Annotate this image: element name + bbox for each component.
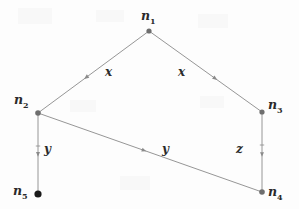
- node-n5[interactable]: [34, 190, 41, 197]
- node-label-subscript: 2: [23, 100, 29, 110]
- node-layer: [34, 28, 264, 197]
- node-label-n1: n1: [141, 10, 156, 25]
- edge-layer: [38, 31, 262, 194]
- arrowhead-layer: [36, 74, 264, 156]
- edge-label-e-n3-n4: z: [236, 143, 243, 155]
- edge-label-e-n1-n3: x: [178, 66, 185, 78]
- node-label-base: n: [13, 183, 22, 198]
- edge-n2-n4[interactable]: [38, 113, 262, 192]
- node-label-base: n: [268, 97, 277, 112]
- node-label-subscript: 3: [277, 105, 283, 115]
- node-label-subscript: 4: [277, 192, 283, 202]
- edge-n1-n3[interactable]: [149, 31, 262, 112]
- node-n4[interactable]: [259, 189, 265, 195]
- edge-label-e-n1-n2: x: [105, 66, 112, 78]
- arrowhead-n2-n4: [141, 148, 146, 152]
- node-label-n2: n2: [14, 94, 29, 109]
- graph-figure: xxyyzn1n2n3n4n5: [0, 0, 299, 209]
- node-label-base: n: [268, 184, 277, 199]
- node-label-n5: n5: [13, 185, 28, 200]
- edge-n1-n2[interactable]: [38, 31, 149, 113]
- node-n1[interactable]: [146, 28, 151, 33]
- node-label-subscript: 1: [150, 16, 156, 26]
- arrowhead-n1-n3: [212, 75, 217, 80]
- edge-label-e-n2-n5: y: [44, 143, 51, 155]
- tick-mark-layer: [36, 145, 264, 146]
- node-n2[interactable]: [35, 110, 41, 116]
- arrowhead-n2-n5: [36, 152, 40, 157]
- node-label-n4: n4: [268, 186, 283, 201]
- node-label-base: n: [14, 92, 23, 107]
- graph-canvas: [0, 0, 299, 209]
- node-label-subscript: 5: [22, 191, 28, 201]
- arrowhead-n3-n4: [260, 152, 264, 157]
- node-n3[interactable]: [259, 109, 264, 114]
- edge-label-e-n2-n4: y: [162, 143, 169, 155]
- node-label-base: n: [141, 8, 150, 23]
- arrowhead-n1-n2: [84, 74, 89, 79]
- node-label-n3: n3: [268, 99, 283, 114]
